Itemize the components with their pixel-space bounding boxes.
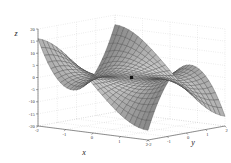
y-tick-label: 2 [225,128,228,133]
plot-canvas: 20151050-5-10-15-20-2-1012-2-1012zxy [0,0,231,163]
z-tick-label: 15 [30,39,35,44]
z-tick-label: -10 [29,99,36,104]
surface-plot-figure: 20151050-5-10-15-20-2-1012-2-1012zxy [0,0,231,163]
y-tick-label: -2 [148,142,153,147]
z-axis-label: z [13,29,18,38]
y-axis-label: y [190,138,195,147]
z-tick-label: 5 [33,63,36,68]
z-tick-label: -15 [29,112,36,117]
y-tick-label: 0 [187,135,190,140]
z-tick-label: 0 [33,75,36,80]
z-tick-label: 20 [30,27,35,32]
y-tick-label: 1 [206,132,209,137]
z-tick-label: 10 [30,51,35,56]
x-tick-label: -2 [35,128,40,133]
y-tick-label: -1 [167,139,172,144]
gridline [57,123,167,137]
x-tick-label: 1 [118,139,121,144]
x-tick-label: -1 [63,132,68,137]
x-tick-label: 0 [91,135,94,140]
origin-marker [130,76,133,79]
z-tick-label: -5 [31,87,36,92]
x-axis-label: x [81,148,86,157]
